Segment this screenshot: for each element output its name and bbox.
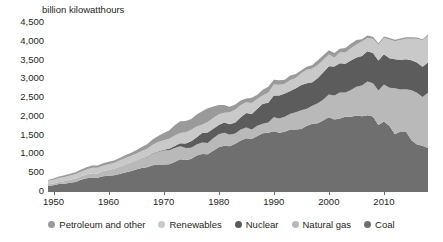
legend-label: Coal <box>375 219 395 230</box>
x-tick-mark <box>109 191 110 195</box>
legend-label: Natural gas <box>303 219 352 230</box>
legend-item[interactable]: Renewables <box>158 219 221 230</box>
x-tick-label: 1960 <box>98 196 119 207</box>
x-tick-mark <box>219 191 220 195</box>
y-tick-label: 0 <box>39 186 44 196</box>
y-tick-label: 2,000 <box>20 111 44 121</box>
area-series-group <box>48 22 428 191</box>
legend-swatch-icon <box>158 221 165 228</box>
legend-swatch-icon <box>235 221 242 228</box>
x-tick-mark <box>54 191 55 195</box>
x-tick-label: 2000 <box>318 196 339 207</box>
x-tick-mark <box>164 191 165 195</box>
x-axis: 1950196019701980199020002010 <box>48 196 428 209</box>
legend-label: Nuclear <box>246 219 279 230</box>
y-tick-label: 1,000 <box>20 148 44 158</box>
legend-item[interactable]: Natural gas <box>292 219 352 230</box>
legend-swatch-icon <box>292 221 299 228</box>
y-tick-label: 3,000 <box>20 73 44 83</box>
x-tick-label: 1950 <box>43 196 64 207</box>
legend-item[interactable]: Coal <box>364 219 395 230</box>
x-tick-label: 2010 <box>373 196 394 207</box>
y-tick-label: 4,000 <box>20 36 44 46</box>
x-tick-mark <box>274 191 275 195</box>
x-tick-mark <box>384 191 385 195</box>
legend-label: Renewables <box>169 219 221 230</box>
y-tick-label: 1,500 <box>20 130 44 140</box>
legend-item[interactable]: Nuclear <box>235 219 279 230</box>
legend-swatch-icon <box>364 221 371 228</box>
x-tick-label: 1980 <box>208 196 229 207</box>
legend-label: Petroleum and other <box>59 219 145 230</box>
y-axis-title: billion kilowatthours <box>42 4 124 15</box>
y-tick-label: 500 <box>28 167 44 177</box>
x-tick-label: 1990 <box>263 196 284 207</box>
y-tick-label: 2,500 <box>20 92 44 102</box>
x-tick-label: 1970 <box>153 196 174 207</box>
chart-legend: Petroleum and otherRenewablesNuclearNatu… <box>0 216 443 232</box>
y-tick-label: 4,500 <box>20 17 44 27</box>
legend-item[interactable]: Petroleum and other <box>48 219 145 230</box>
x-tick-mark <box>329 191 330 195</box>
stacked-area-chart: billion kilowatthours 05001,0001,5002,00… <box>0 0 443 242</box>
y-axis: 05001,0001,5002,0002,5003,0003,5004,0004… <box>0 22 44 191</box>
plot-area <box>48 22 428 191</box>
legend-swatch-icon <box>48 221 55 228</box>
y-tick-label: 3,500 <box>20 55 44 65</box>
